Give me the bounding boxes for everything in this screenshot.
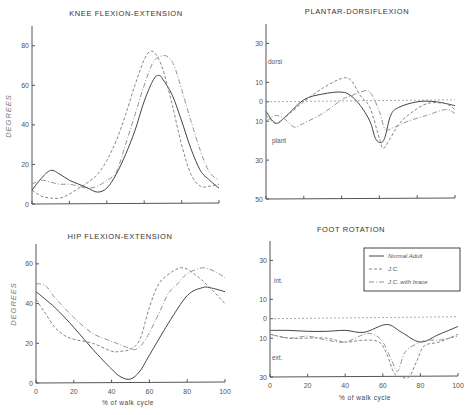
x-axis xyxy=(32,203,219,204)
plantar-dorsiflexion-chart: PLANTAR-DORSIFLEXION dorsi plant 3010010… xyxy=(255,7,455,203)
knee-y-axis-label: DEGREES xyxy=(4,94,13,138)
x-tick-label: 40 xyxy=(341,382,349,389)
y-tick-label: 10 xyxy=(259,296,267,303)
knee-lines xyxy=(32,51,219,198)
y-tick-label: 0 xyxy=(25,201,29,208)
y-tick-label: 30 xyxy=(255,40,263,47)
x-tick-label: 0 xyxy=(268,382,272,389)
foot-chart-title: FOOT ROTATION xyxy=(317,225,385,234)
hip-y-axis-label: DEGREES xyxy=(9,282,18,326)
legend-brace-label: J.C. with brace xyxy=(387,279,428,285)
y-tick-label: 30 xyxy=(255,157,263,164)
hip-x-axis-label: % of walk cycle xyxy=(102,399,154,407)
dorsi-annotation: dorsi xyxy=(268,58,282,65)
y-tick-label: 40 xyxy=(25,300,33,307)
legend-normal-label: Normal Adult xyxy=(388,253,423,259)
hip-axes: 0204060020406080100 xyxy=(25,244,231,395)
x-tick-label: 20 xyxy=(304,382,312,389)
series-j-c-with-brace xyxy=(32,55,219,188)
x-tick-label: 80 xyxy=(417,382,425,389)
hip-lines xyxy=(36,268,225,380)
zero-reference-line xyxy=(270,317,458,319)
ext-annotation: ext. xyxy=(272,354,283,361)
x-tick-label: 0 xyxy=(34,388,38,395)
y-tick-label: 60 xyxy=(25,260,33,267)
plantar-axes: 30100103050 xyxy=(255,24,455,203)
knee-chart-title: KNEE FLEXION-EXTENSION xyxy=(69,9,183,18)
x-tick-label: 60 xyxy=(146,388,154,395)
x-axis xyxy=(266,198,455,199)
plant-annotation: plant xyxy=(272,137,286,145)
y-tick-label: 60 xyxy=(21,82,29,89)
x-tick-label: 100 xyxy=(452,382,464,389)
y-tick-label: 10 xyxy=(259,335,267,342)
int-annotation: int. xyxy=(274,277,283,284)
hip-chart: HIP FLEXION-EXTENSION DEGREES % of walk … xyxy=(9,232,231,407)
y-tick-label: 20 xyxy=(25,340,33,347)
y-tick-label: 0 xyxy=(29,380,33,387)
x-axis xyxy=(36,382,225,383)
y-tick-label: 20 xyxy=(21,161,29,168)
knee-chart: KNEE FLEXION-EXTENSION DEGREES 020406080 xyxy=(4,9,219,208)
y-tick-label: 10 xyxy=(255,79,263,86)
x-tick-label: 80 xyxy=(183,388,191,395)
knee-axes: 020406080 xyxy=(21,26,219,208)
y-tick-label: 0 xyxy=(259,98,263,105)
series-j-c xyxy=(270,334,458,378)
x-tick-label: 20 xyxy=(70,388,78,395)
series-j-c xyxy=(32,51,219,198)
gait-analysis-figure: KNEE FLEXION-EXTENSION DEGREES 020406080… xyxy=(0,0,469,415)
x-tick-label: 100 xyxy=(219,388,231,395)
plantar-lines xyxy=(266,78,455,149)
foot-lines xyxy=(270,325,458,379)
x-tick-label: 60 xyxy=(379,382,387,389)
legend-jc-label: J.C. xyxy=(387,266,399,272)
series-normal-adult xyxy=(270,325,458,343)
y-tick-label: 10 xyxy=(255,118,263,125)
x-tick-label: 40 xyxy=(108,388,116,395)
plantar-chart-title: PLANTAR-DORSIFLEXION xyxy=(305,7,409,16)
foot-x-axis-label: % of walk cycle xyxy=(339,394,391,402)
y-tick-label: 30 xyxy=(259,257,267,264)
y-tick-label: 40 xyxy=(21,121,29,128)
x-axis xyxy=(270,376,458,377)
series-normal-adult xyxy=(36,287,225,379)
series-j-c xyxy=(36,268,225,352)
series-j-c xyxy=(266,78,455,149)
series-normal-adult xyxy=(266,92,455,143)
series-j-c-with-brace xyxy=(36,268,225,350)
foot-rotation-chart: FOOT ROTATION int. ext. % of walk cycle … xyxy=(259,225,464,402)
y-tick-label: 50 xyxy=(255,196,263,203)
y-tick-label: 0 xyxy=(263,315,267,322)
y-tick-label: 80 xyxy=(21,42,29,49)
hip-chart-title: HIP FLEXION-EXTENSION xyxy=(68,232,173,241)
y-tick-label: 30 xyxy=(259,374,267,381)
legend: Normal Adult J.C. J.C. with brace xyxy=(364,248,460,291)
